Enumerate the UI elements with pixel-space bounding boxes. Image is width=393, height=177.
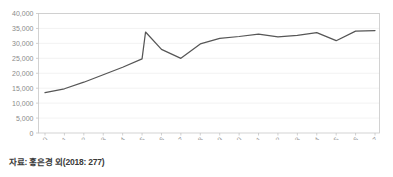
x-axis-tick-label: 2017 (363, 136, 379, 140)
x-axis-tick-label: 2006 (149, 136, 165, 140)
y-axis-tick-label: 25,000 (12, 55, 34, 62)
x-axis-tick-label: 2005 (130, 136, 146, 140)
x-axis-tick-label: 2011 (247, 136, 263, 140)
y-axis-tick-label: 0 (30, 130, 34, 137)
x-axis-tick-label: 2014 (305, 136, 321, 140)
x-axis-tick-label: 2000 (33, 136, 49, 140)
y-axis-tick-label: 5,000 (16, 115, 34, 122)
x-axis-tick-label: 2016 (344, 136, 360, 140)
y-axis-tick-label: 10,000 (12, 100, 34, 107)
line-chart: 05,00010,00015,00020,00025,00030,00035,0… (0, 0, 393, 140)
x-axis-tick-label: 2010 (227, 136, 243, 140)
chart-svg: 05,00010,00015,00020,00025,00030,00035,0… (0, 0, 393, 140)
x-axis-tick-label: 2002 (72, 136, 88, 140)
y-axis-tick-labels: 05,00010,00015,00020,00025,00030,00035,0… (12, 10, 34, 137)
x-axis-tick-label: 2001 (52, 136, 68, 140)
y-axis-tick-label: 20,000 (12, 70, 34, 77)
data-series-line (45, 31, 375, 93)
gridlines-group (36, 14, 380, 134)
x-axis-tick-label: 2009 (208, 136, 224, 140)
y-axis-tick-label: 15,000 (12, 85, 34, 92)
x-axis-tick-labels: 2000200120022003200420052006200720082009… (33, 136, 379, 140)
chart-figure: 05,00010,00015,00020,00025,00030,00035,0… (0, 0, 393, 177)
y-axis-tick-label: 35,000 (12, 25, 34, 32)
x-axis-tick-label: 2015 (324, 136, 340, 140)
y-axis-tick-label: 40,000 (12, 10, 34, 17)
x-axis-tick-label: 2004 (111, 136, 127, 140)
x-axis-tick-label: 2012 (266, 136, 282, 140)
x-axis-tick-label: 2013 (285, 136, 301, 140)
source-note: 자료: 홍은경 외(2018: 277) (9, 155, 105, 167)
y-axis-tick-label: 30,000 (12, 40, 34, 47)
x-axis-tick-label: 2003 (91, 136, 107, 140)
x-axis-tick-label: 2007 (169, 136, 185, 140)
x-axis-tick-label: 2008 (188, 136, 204, 140)
